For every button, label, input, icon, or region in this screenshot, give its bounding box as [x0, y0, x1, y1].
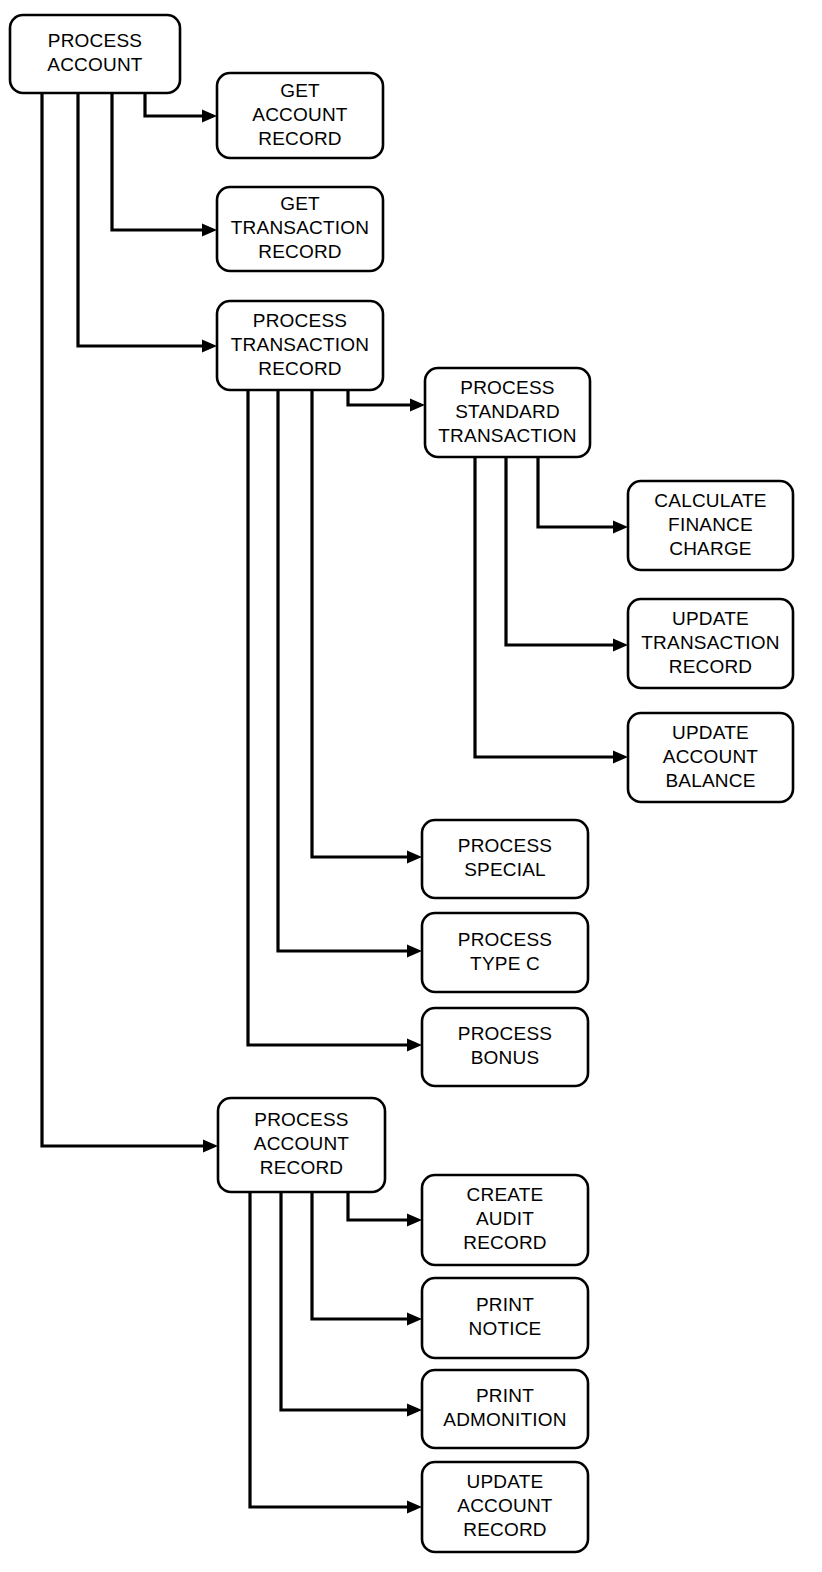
node-process-account-record[interactable]: PROCESSACCOUNTRECORD — [218, 1098, 385, 1192]
connector-line — [348, 390, 410, 405]
node-label-line: ACCOUNT — [457, 1495, 553, 1516]
arrow-head-icon — [407, 945, 422, 958]
connector-process-type-c — [278, 390, 422, 958]
node-label-line: TYPE C — [470, 953, 540, 974]
node-label-line: ADMONITION — [443, 1409, 566, 1430]
connector-print-admonition — [281, 1192, 422, 1417]
connector-create-audit-record — [348, 1192, 422, 1227]
node-label-line: RECORD — [258, 358, 342, 379]
connector-update-transaction-record — [506, 457, 628, 652]
connector-calculate-finance-charge — [538, 457, 628, 534]
node-update-transaction-record[interactable]: UPDATETRANSACTIONRECORD — [628, 599, 793, 688]
node-get-transaction-record[interactable]: GETTRANSACTIONRECORD — [217, 187, 383, 271]
node-label-line: NOTICE — [469, 1318, 542, 1339]
node-label-line: CREATE — [467, 1184, 544, 1205]
arrow-head-icon — [202, 110, 217, 123]
node-label-line: PROCESS — [460, 377, 554, 398]
structure-chart-diagram: PROCESSACCOUNTGETACCOUNTRECORDGETTRANSAC… — [0, 0, 822, 1572]
node-label-line: TRANSACTION — [231, 217, 369, 238]
node-process-special[interactable]: PROCESSSPECIAL — [422, 820, 588, 898]
node-label-line: BONUS — [471, 1047, 540, 1068]
node-create-audit-record[interactable]: CREATEAUDITRECORD — [422, 1175, 588, 1265]
arrow-head-icon — [407, 1404, 422, 1417]
connector-line — [112, 93, 202, 230]
node-label-line: ACCOUNT — [663, 746, 759, 767]
node-label-line: PROCESS — [254, 1109, 348, 1130]
node-label-calculate-finance-charge: CALCULATEFINANCECHARGE — [654, 490, 766, 559]
node-label-line: RECORD — [669, 656, 753, 677]
connector-process-special — [312, 390, 422, 864]
node-update-account-record[interactable]: UPDATEACCOUNTRECORD — [422, 1462, 588, 1552]
connector-get-account-record — [145, 93, 217, 123]
connector-update-account-record — [250, 1192, 422, 1514]
connector-line — [348, 1192, 407, 1220]
node-label-line: PROCESS — [458, 1023, 552, 1044]
node-label-line: SPECIAL — [464, 859, 546, 880]
node-get-account-record[interactable]: GETACCOUNTRECORD — [217, 73, 383, 158]
connector-line — [78, 93, 202, 346]
node-process-transaction-record[interactable]: PROCESSTRANSACTIONRECORD — [217, 301, 383, 390]
node-label-line: FINANCE — [668, 514, 753, 535]
node-label-line: PRINT — [476, 1294, 534, 1315]
node-label-line: PROCESS — [458, 835, 552, 856]
node-process-type-c[interactable]: PROCESSTYPE C — [422, 913, 588, 992]
node-layer: PROCESSACCOUNTGETACCOUNTRECORDGETTRANSAC… — [10, 15, 793, 1552]
node-label-line: TRANSACTION — [438, 425, 576, 446]
connector-update-account-balance — [475, 457, 628, 764]
connector-line — [475, 457, 613, 757]
connector-process-transaction-record — [78, 93, 217, 353]
node-label-line: AUDIT — [476, 1208, 534, 1229]
node-label-update-account-record: UPDATEACCOUNTRECORD — [457, 1471, 553, 1540]
node-print-notice[interactable]: PRINTNOTICE — [422, 1278, 588, 1358]
node-calculate-finance-charge[interactable]: CALCULATEFINANCECHARGE — [628, 481, 793, 570]
arrow-head-icon — [410, 399, 425, 412]
diagram-canvas: PROCESSACCOUNTGETACCOUNTRECORDGETTRANSAC… — [0, 0, 822, 1572]
node-process-account[interactable]: PROCESSACCOUNT — [10, 15, 180, 93]
node-label-line: PROCESS — [48, 30, 142, 51]
node-label-line: ACCOUNT — [47, 54, 143, 75]
arrow-head-icon — [202, 340, 217, 353]
arrow-head-icon — [407, 1214, 422, 1227]
connector-process-standard-transaction — [348, 390, 425, 412]
connector-line — [42, 93, 203, 1146]
arrow-head-icon — [407, 851, 422, 864]
node-label-line: CALCULATE — [654, 490, 766, 511]
connector-line — [506, 457, 613, 645]
arrow-head-icon — [407, 1039, 422, 1052]
arrow-head-icon — [613, 521, 628, 534]
node-label-line: RECORD — [463, 1519, 547, 1540]
connector-line — [281, 1192, 407, 1410]
node-label-line: PROCESS — [253, 310, 347, 331]
node-label-line: ACCOUNT — [252, 104, 348, 125]
node-process-standard-transaction[interactable]: PROCESSSTANDARDTRANSACTION — [425, 368, 590, 457]
connector-line — [145, 93, 202, 116]
node-update-account-balance[interactable]: UPDATEACCOUNTBALANCE — [628, 713, 793, 802]
arrow-head-icon — [407, 1501, 422, 1514]
connector-line — [250, 1192, 407, 1507]
node-label-line: CHARGE — [669, 538, 752, 559]
connector-process-account-record — [42, 93, 218, 1153]
arrow-head-icon — [613, 751, 628, 764]
node-label-line: RECORD — [463, 1232, 547, 1253]
node-label-line: UPDATE — [467, 1471, 544, 1492]
node-label-line: PROCESS — [458, 929, 552, 950]
node-label-line: STANDARD — [455, 401, 560, 422]
node-label-line: TRANSACTION — [641, 632, 779, 653]
arrow-head-icon — [613, 639, 628, 652]
node-label-line: RECORD — [258, 241, 342, 262]
node-label-line: RECORD — [258, 128, 342, 149]
node-print-admonition[interactable]: PRINTADMONITION — [422, 1370, 588, 1448]
node-label-line: UPDATE — [672, 722, 749, 743]
connector-line — [278, 390, 407, 951]
arrow-head-icon — [203, 1140, 218, 1153]
node-label-update-account-balance: UPDATEACCOUNTBALANCE — [663, 722, 759, 791]
node-label-process-account-record: PROCESSACCOUNTRECORD — [254, 1109, 350, 1178]
connector-print-notice — [312, 1192, 422, 1326]
node-label-line: ACCOUNT — [254, 1133, 350, 1154]
node-label-line: GET — [280, 80, 320, 101]
node-label-line: RECORD — [260, 1157, 344, 1178]
connector-line — [248, 390, 407, 1045]
connector-line — [312, 390, 407, 857]
node-process-bonus[interactable]: PROCESSBONUS — [422, 1008, 588, 1086]
node-label-line: PRINT — [476, 1385, 534, 1406]
